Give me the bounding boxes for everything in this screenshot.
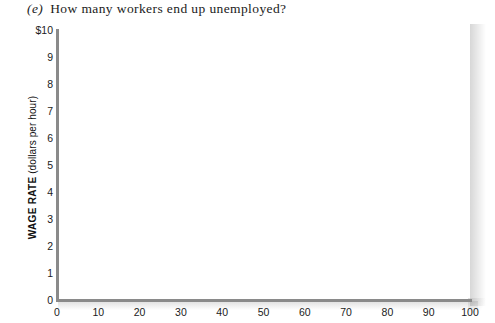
y-tick-label: 7 [7,105,53,117]
x-tick-label: 100 [450,306,490,318]
y-axis-line [56,29,59,302]
x-tick-label: 50 [244,306,284,318]
x-tick-label: 10 [78,306,118,318]
plot-area[interactable] [58,30,470,300]
x-axis-line [56,299,472,302]
y-tick-label: 5 [7,159,53,171]
x-tick-label: 70 [326,306,366,318]
x-tick-label: 60 [285,306,325,318]
y-tick-label: 3 [7,213,53,225]
y-tick-label: 6 [7,132,53,144]
x-tick-label: 30 [161,306,201,318]
y-tick-label: 4 [7,186,53,198]
blank-graph-grid: WAGE RATE (dollars per hour) $1098765432… [0,0,495,323]
y-tick-label: 9 [7,51,53,63]
page-shadow-right [470,24,486,306]
x-tick-label: 0 [37,306,77,318]
y-axis-tick-labels: $109876543210 [0,0,53,323]
x-tick-label: 40 [202,306,242,318]
y-tick-label: 1 [7,267,53,279]
x-tick-label: 80 [367,306,407,318]
x-tick-label: 20 [120,306,160,318]
x-tick-label: 90 [409,306,449,318]
y-tick-label: 2 [7,240,53,252]
y-tick-label: $10 [7,24,53,36]
y-tick-label: 8 [7,78,53,90]
worksheet-page: (e)How many workers end up unemployed? W… [0,0,495,323]
y-tick-label: 0 [7,294,53,306]
x-axis-tick-labels: 0102030405060708090100 [0,306,495,323]
